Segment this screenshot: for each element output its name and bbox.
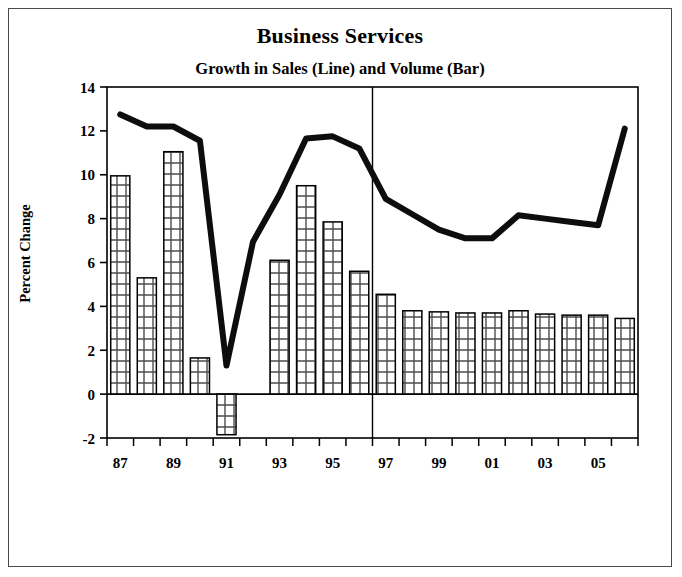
y-tick-label: 2 [88, 343, 96, 359]
bar [429, 312, 448, 394]
bar [270, 260, 289, 394]
bar [482, 313, 501, 394]
x-tick-label: 93 [272, 455, 287, 471]
y-tick-label: 14 [80, 80, 96, 96]
bar [137, 278, 156, 394]
bar [615, 318, 634, 394]
x-tick-label: 01 [484, 455, 499, 471]
bar [589, 315, 608, 394]
y-tick-label: 0 [88, 387, 96, 403]
bar [536, 314, 555, 394]
bar [164, 152, 183, 394]
bar [376, 294, 395, 394]
x-tick-label: 03 [538, 455, 553, 471]
bar [456, 313, 475, 394]
bar [562, 315, 581, 394]
bar [323, 222, 342, 394]
bar [297, 186, 316, 394]
bar [111, 176, 130, 394]
bar [190, 358, 209, 394]
x-tick-label: 91 [219, 455, 234, 471]
x-tick-label: 87 [113, 455, 128, 471]
x-tick-label: 97 [378, 455, 394, 471]
bar [403, 311, 422, 394]
bar [509, 311, 528, 394]
y-tick-label: 6 [88, 255, 96, 271]
y-tick-label: 4 [88, 299, 96, 315]
chart-plot: 14121086420-287899193959799010305 [9, 9, 673, 568]
x-tick-label: 89 [166, 455, 181, 471]
figure-frame: Business Services Growth in Sales (Line)… [8, 8, 672, 567]
y-tick-label: 12 [80, 123, 95, 139]
y-tick-label: -2 [83, 431, 96, 447]
bar [217, 394, 236, 435]
y-tick-label: 8 [88, 211, 96, 227]
bar [350, 271, 369, 394]
x-tick-label: 99 [431, 455, 446, 471]
x-tick-label: 05 [591, 455, 606, 471]
x-tick-label: 95 [325, 455, 340, 471]
y-tick-label: 10 [80, 167, 95, 183]
